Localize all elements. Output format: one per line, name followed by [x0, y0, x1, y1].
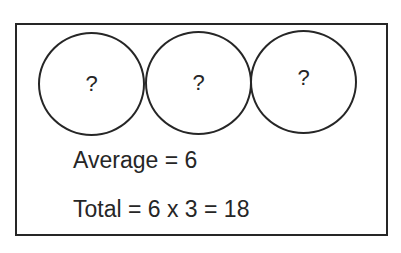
total-text: Total = 6 x 3 = 18 [73, 198, 249, 221]
unknown-value-1: ? [85, 73, 97, 95]
unknown-value-2: ? [192, 72, 204, 94]
unknown-circle-1: ? [38, 32, 145, 136]
unknown-circle-2: ? [145, 31, 252, 135]
average-text: Average = 6 [73, 149, 197, 172]
unknown-value-3: ? [297, 67, 309, 89]
unknown-circle-3: ? [250, 30, 357, 134]
